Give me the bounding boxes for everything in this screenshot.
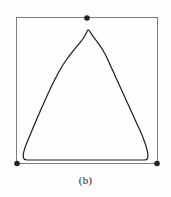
figure-drawing-canvas [0, 0, 171, 197]
figure-caption: (b) [0, 174, 171, 187]
vertex-dot-bottom-right [154, 161, 160, 167]
figure-panel-b: (b) [0, 0, 171, 197]
vertex-dot-top [84, 15, 90, 21]
vertex-dot-bottom-left [14, 161, 20, 167]
figure-background [0, 0, 171, 197]
